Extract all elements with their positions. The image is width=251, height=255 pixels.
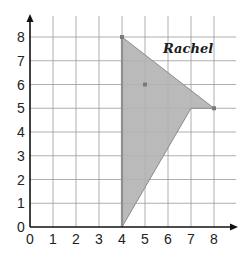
y-tick-label: 0 <box>17 219 25 235</box>
x-tick-label: 5 <box>141 231 149 247</box>
x-tick-label: 4 <box>118 231 126 247</box>
y-tick-label: 2 <box>17 172 25 188</box>
y-tick-label: 5 <box>17 100 25 116</box>
y-tick-label: 8 <box>17 29 25 45</box>
x-tick-label: 6 <box>164 231 172 247</box>
x-axis-tick-labels: 012345678 <box>26 231 218 247</box>
x-tick-label: 7 <box>187 231 195 247</box>
signature-text: Rachel <box>162 41 213 56</box>
x-tick-label: 3 <box>95 231 103 247</box>
x-axis-arrow-icon <box>230 224 238 231</box>
y-tick-label: 1 <box>17 195 25 211</box>
x-tick-label: 2 <box>72 231 80 247</box>
y-tick-label: 4 <box>17 124 25 140</box>
y-axis-tick-labels: 012345678 <box>17 29 25 235</box>
y-axis-arrow-icon <box>27 14 34 22</box>
y-tick-label: 3 <box>17 148 25 164</box>
vertex-point <box>212 106 216 110</box>
x-tick-label: 0 <box>26 231 34 247</box>
x-tick-label: 1 <box>49 231 57 247</box>
y-tick-label: 6 <box>17 77 25 93</box>
y-tick-label: 7 <box>17 53 25 69</box>
vertex-point <box>143 83 147 87</box>
coordinate-grid: 012345678 012345678 Rachel <box>0 0 251 255</box>
x-tick-label: 8 <box>210 231 218 247</box>
vertex-point <box>120 35 124 39</box>
